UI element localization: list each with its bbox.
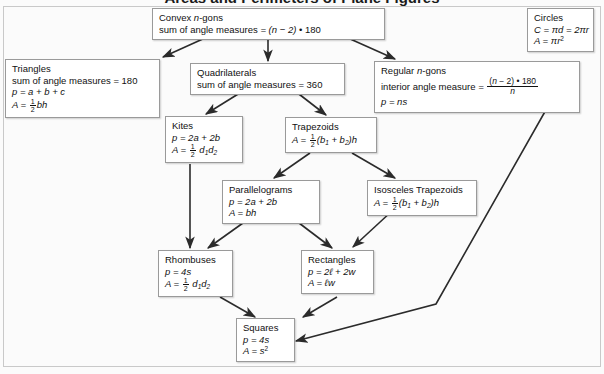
- node-rhombuses[interactable]: Rhombuses p = 4s A = 12 d1d2: [158, 250, 233, 297]
- node-formula: A = 12(b1 + b2)h: [374, 196, 470, 211]
- node-formula: p = a + b + c: [12, 86, 153, 98]
- node-title: Parallelograms: [229, 184, 313, 196]
- node-circles[interactable]: Circles C = πd = 2πr A = πr2: [527, 8, 594, 52]
- node-formula: A = 12 d1d2: [165, 277, 226, 292]
- node-trapezoids[interactable]: Trapezoids A = 12(b1 + b2)h: [285, 117, 377, 153]
- node-formula: A = 12bh: [12, 98, 153, 113]
- node-formula: sum of angle measures = 360: [197, 79, 338, 91]
- node-formula: A = πr2: [534, 35, 587, 47]
- node-kites[interactable]: Kites p = 2a + 2b A = 12 d1d2: [165, 116, 243, 163]
- node-title: Rectangles: [308, 254, 367, 266]
- node-title: Isosceles Trapezoids: [374, 184, 470, 196]
- node-formula: p = 2ℓ + 2w: [308, 266, 367, 278]
- node-formula: A = 12 d1d2: [172, 143, 236, 158]
- node-formula: A = ℓw: [308, 277, 367, 289]
- node-title: Trapezoids: [292, 121, 370, 133]
- node-title: Regular n-gons: [381, 65, 573, 77]
- node-title: Squares: [243, 322, 288, 334]
- node-formula: sum of angle measures = 180: [12, 75, 153, 87]
- node-quadrilaterals[interactable]: Quadrilaterals sum of angle measures = 3…: [190, 63, 345, 95]
- node-formula: p = ns: [381, 96, 573, 108]
- node-isosceles-trapezoids[interactable]: Isosceles Trapezoids A = 12(b1 + b2)h: [367, 180, 477, 216]
- node-formula: A = bh: [229, 207, 313, 219]
- node-formula: p = 4s: [243, 334, 288, 346]
- node-rectangles[interactable]: Rectangles p = 2ℓ + 2w A = ℓw: [301, 250, 374, 294]
- node-squares[interactable]: Squares p = 4s A = s2: [236, 318, 295, 362]
- node-formula: sum of angle measures = (n − 2) • 180: [159, 24, 378, 36]
- node-title: Circles: [534, 12, 587, 24]
- node-formula: A = s2: [243, 345, 288, 357]
- node-formula: p = 2a + 2b: [229, 196, 313, 208]
- node-title: Convex n-gons: [159, 12, 378, 24]
- node-title: Kites: [172, 120, 236, 132]
- node-formula: C = πd = 2πr: [534, 24, 587, 36]
- node-parallelograms[interactable]: Parallelograms p = 2a + 2b A = bh: [222, 180, 320, 224]
- node-triangles[interactable]: Triangles sum of angle measures = 180 p …: [5, 59, 160, 118]
- node-formula: p = 4s: [165, 266, 226, 278]
- node-regular-ngons[interactable]: Regular n-gons interior angle measure = …: [374, 61, 580, 113]
- node-formula: p = 2a + 2b: [172, 132, 236, 144]
- diagram-canvas: Areas and Perimeters of Plane Figures: [0, 0, 604, 374]
- node-title: Rhombuses: [165, 254, 226, 266]
- node-title: Triangles: [12, 63, 153, 75]
- node-title: Quadrilaterals: [197, 67, 338, 79]
- node-convex-ngons[interactable]: Convex n-gons sum of angle measures = (n…: [152, 8, 385, 40]
- node-formula: A = 12(b1 + b2)h: [292, 133, 370, 148]
- node-formula: interior angle measure = (n − 2) • 180n: [381, 77, 573, 96]
